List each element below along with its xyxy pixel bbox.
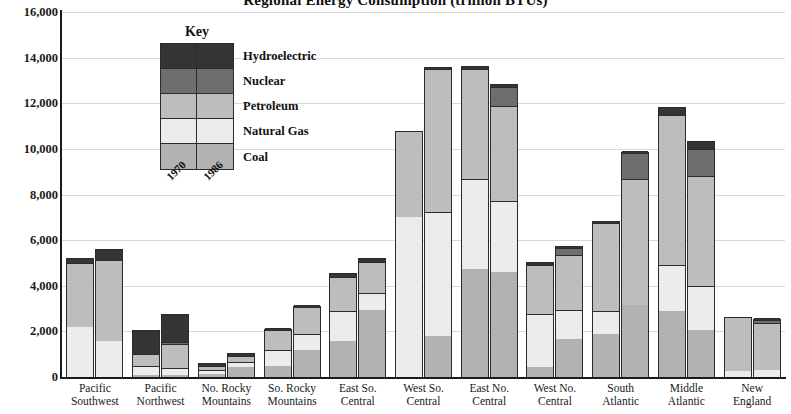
bar-segment-nuclear[interactable] [754, 320, 780, 323]
bar-segment-natural-gas[interactable] [725, 371, 751, 377]
bar-pacific-southwest-1986[interactable] [95, 249, 123, 377]
bar-segment-coal[interactable] [330, 341, 356, 378]
bar-segment-natural-gas[interactable] [67, 327, 93, 377]
bar-segment-natural-gas[interactable] [294, 334, 320, 350]
bar-segment-hydroelectric[interactable] [330, 273, 356, 276]
bar-segment-hydroelectric[interactable] [359, 258, 385, 261]
bar-segment-natural-gas[interactable] [396, 217, 422, 377]
bar-segment-hydroelectric[interactable] [294, 305, 320, 307]
bar-segment-natural-gas[interactable] [556, 310, 582, 340]
bar-segment-petroleum[interactable] [396, 131, 422, 218]
bar-no-rocky-mountains-1986[interactable] [227, 353, 255, 377]
bar-segment-hydroelectric[interactable] [67, 258, 93, 263]
legend-row-petroleum[interactable]: Petroleum [161, 94, 233, 119]
bar-segment-hydroelectric[interactable] [754, 318, 780, 320]
bar-segment-petroleum[interactable] [622, 179, 648, 306]
bar-segment-coal[interactable] [162, 375, 188, 377]
bar-segment-petroleum[interactable] [593, 223, 619, 311]
bar-segment-petroleum[interactable] [556, 255, 582, 310]
bar-segment-natural-gas[interactable] [754, 370, 780, 377]
bar-segment-petroleum[interactable] [425, 69, 451, 212]
bar-segment-hydroelectric[interactable] [527, 262, 553, 265]
bar-segment-petroleum[interactable] [527, 265, 553, 314]
bar-segment-petroleum[interactable] [688, 176, 714, 286]
bar-segment-hydroelectric[interactable] [462, 66, 488, 69]
bar-segment-nuclear[interactable] [491, 87, 517, 105]
bar-east-so-central-1986[interactable] [358, 258, 386, 377]
bar-segment-natural-gas[interactable] [462, 179, 488, 269]
bar-segment-hydroelectric[interactable] [491, 84, 517, 87]
bar-segment-petroleum[interactable] [96, 260, 122, 341]
bar-segment-petroleum[interactable] [725, 317, 751, 372]
bar-segment-natural-gas[interactable] [133, 366, 159, 375]
bar-segment-natural-gas[interactable] [425, 212, 451, 336]
bar-segment-nuclear[interactable] [162, 342, 188, 344]
bar-segment-petroleum[interactable] [133, 354, 159, 365]
bar-south-atlantic-1986[interactable] [621, 152, 649, 377]
bar-segment-petroleum[interactable] [754, 323, 780, 370]
bar-segment-natural-gas[interactable] [96, 341, 122, 378]
bar-pacific-southwest-1970[interactable] [66, 258, 94, 377]
legend-row-hydroelectric[interactable]: Hydroelectric [161, 44, 233, 69]
bar-segment-hydroelectric[interactable] [162, 314, 188, 341]
legend-row-natural-gas[interactable]: Natural Gas [161, 119, 233, 144]
bar-segment-coal[interactable] [359, 310, 385, 377]
bar-new-england-1986[interactable] [753, 319, 781, 377]
bar-segment-hydroelectric[interactable] [593, 221, 619, 223]
bar-segment-coal[interactable] [425, 336, 451, 377]
bar-segment-hydroelectric[interactable] [622, 151, 648, 153]
bar-segment-natural-gas[interactable] [359, 293, 385, 310]
bar-segment-coal[interactable] [491, 272, 517, 377]
bar-segment-hydroelectric[interactable] [228, 353, 254, 356]
bar-segment-hydroelectric[interactable] [133, 330, 159, 354]
bar-segment-nuclear[interactable] [556, 248, 582, 255]
bar-segment-natural-gas[interactable] [162, 368, 188, 375]
bar-segment-petroleum[interactable] [462, 69, 488, 179]
bar-segment-petroleum[interactable] [67, 263, 93, 327]
bar-segment-natural-gas[interactable] [491, 201, 517, 272]
bar-segment-coal[interactable] [265, 366, 291, 377]
bar-south-atlantic-1970[interactable] [592, 221, 620, 377]
bar-segment-hydroelectric[interactable] [199, 363, 225, 365]
bar-segment-petroleum[interactable] [659, 115, 685, 266]
bar-so-rocky-mountains-1970[interactable] [264, 329, 292, 377]
bar-segment-hydroelectric[interactable] [659, 107, 685, 115]
bar-segment-natural-gas[interactable] [527, 314, 553, 366]
bar-segment-hydroelectric[interactable] [556, 246, 582, 248]
bar-segment-hydroelectric[interactable] [96, 249, 122, 259]
bar-west-so-central-1970[interactable] [395, 131, 423, 377]
bar-segment-coal[interactable] [688, 330, 714, 377]
bar-segment-petroleum[interactable] [162, 344, 188, 368]
bar-segment-natural-gas[interactable] [330, 311, 356, 341]
bar-segment-coal[interactable] [622, 305, 648, 377]
bar-middle-atlantic-1970[interactable] [658, 107, 686, 377]
bar-segment-natural-gas[interactable] [688, 286, 714, 330]
bar-pacific-northwest-1970[interactable] [132, 330, 160, 377]
bar-segment-petroleum[interactable] [491, 106, 517, 202]
bar-new-england-1970[interactable] [724, 317, 752, 377]
bar-so-rocky-mountains-1986[interactable] [293, 306, 321, 377]
bar-segment-coal[interactable] [659, 311, 685, 377]
bar-segment-coal[interactable] [462, 269, 488, 377]
legend-row-nuclear[interactable]: Nuclear [161, 69, 233, 94]
bar-segment-petroleum[interactable] [294, 307, 320, 333]
bar-segment-hydroelectric[interactable] [425, 67, 451, 69]
bar-west-no-central-1986[interactable] [555, 246, 583, 377]
bar-segment-petroleum[interactable] [199, 366, 225, 371]
bar-east-so-central-1970[interactable] [329, 273, 357, 377]
bar-segment-coal[interactable] [527, 367, 553, 377]
bar-segment-petroleum[interactable] [265, 330, 291, 349]
bar-segment-natural-gas[interactable] [593, 311, 619, 334]
bar-west-so-central-1986[interactable] [424, 67, 452, 377]
bar-segment-coal[interactable] [593, 334, 619, 377]
bar-segment-coal[interactable] [133, 375, 159, 377]
bar-pacific-northwest-1986[interactable] [161, 314, 189, 377]
bar-segment-coal[interactable] [199, 374, 225, 377]
bar-segment-natural-gas[interactable] [265, 350, 291, 366]
bar-segment-natural-gas[interactable] [659, 265, 685, 311]
bar-segment-nuclear[interactable] [622, 153, 648, 178]
bar-segment-petroleum[interactable] [359, 262, 385, 293]
bar-segment-hydroelectric[interactable] [688, 141, 714, 149]
bar-segment-petroleum[interactable] [228, 356, 254, 362]
bar-segment-natural-gas[interactable] [199, 370, 225, 373]
